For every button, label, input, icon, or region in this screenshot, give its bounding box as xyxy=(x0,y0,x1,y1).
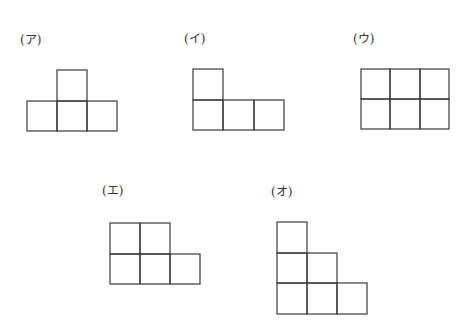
shapes-canvas xyxy=(0,0,474,322)
figure-a xyxy=(27,70,117,131)
figure-o xyxy=(277,222,367,314)
figure-e xyxy=(110,223,200,284)
figure-u xyxy=(361,69,449,129)
figure-i xyxy=(193,69,284,130)
